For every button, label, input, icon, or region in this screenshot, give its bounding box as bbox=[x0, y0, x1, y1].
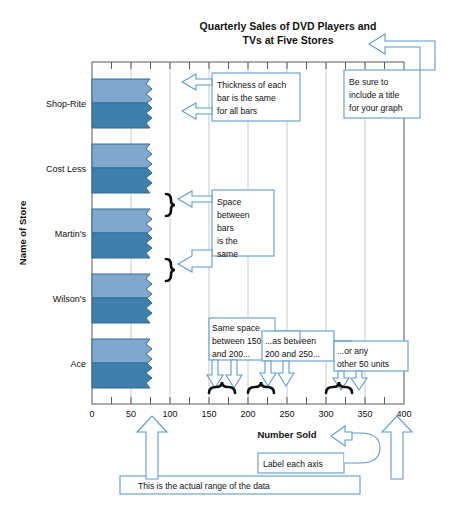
x-tick-300: 300 bbox=[318, 409, 333, 419]
bar-martins-tv bbox=[92, 233, 152, 258]
callout-space-line-1: Space bbox=[217, 197, 242, 207]
category-label-ace: Ace bbox=[70, 359, 86, 369]
x-tick-200: 200 bbox=[240, 409, 255, 419]
x-tick-100: 100 bbox=[162, 409, 177, 419]
callout-thickness-arrow-1 bbox=[182, 74, 212, 90]
chart-title-line-2: TVs at Five Stores bbox=[242, 34, 333, 46]
category-label-wilsons: Wilson's bbox=[53, 294, 87, 304]
callout-thickness-line-3: for all bars bbox=[217, 106, 257, 116]
bar-shop-rite-dvd bbox=[92, 79, 152, 103]
callout-other-50-line-2: other 50 units bbox=[337, 359, 389, 369]
bar-ace-dvd bbox=[92, 339, 152, 363]
callout-thickness-arrow-2 bbox=[182, 103, 212, 119]
bar-wilsons-dvd bbox=[92, 274, 152, 298]
bar-ace-tv bbox=[92, 363, 152, 388]
axis-brace-200-250 bbox=[248, 382, 274, 393]
bar-shop-rite-tv bbox=[92, 103, 152, 128]
callout-same-space-line-2: between 150 bbox=[212, 336, 261, 346]
category-label-cost-less: Cost Less bbox=[46, 164, 87, 174]
callout-as-between-arrow-2 bbox=[278, 361, 294, 386]
callout-space-line-2: between bbox=[217, 210, 250, 220]
callout-actual-range-line-1: This is the actual range of the data bbox=[138, 481, 270, 491]
callout-as-between-arrow-1 bbox=[260, 361, 276, 386]
callout-other-50-line-1: ...or any bbox=[337, 346, 369, 356]
callout-as-between-line-2: 200 and 250... bbox=[265, 349, 320, 359]
bar-wilsons-tv bbox=[92, 298, 152, 323]
callout-same-space-arrow-2 bbox=[226, 360, 242, 388]
callout-space-line-3: bars bbox=[217, 223, 234, 233]
y-axis-title: Name of Store bbox=[17, 201, 28, 265]
chart-canvas: Quarterly Sales of DVD Players and TVs a… bbox=[0, 0, 451, 509]
bar-cost-less-dvd bbox=[92, 144, 152, 168]
callout-thickness-line-1: Thickness of each bbox=[217, 80, 286, 90]
callout-space-arrow-2 bbox=[178, 250, 212, 272]
x-tick-250: 250 bbox=[279, 409, 294, 419]
callout-label-axis-line-1: Label each axis bbox=[263, 459, 323, 469]
callout-title-arrow bbox=[369, 34, 435, 70]
x-axis-title: Number Sold bbox=[257, 429, 316, 440]
x-tick-350: 350 bbox=[357, 409, 372, 419]
x-tick-150: 150 bbox=[201, 409, 216, 419]
callout-title-line-2: include a title bbox=[349, 90, 399, 100]
chart-title-line-1: Quarterly Sales of DVD Players and bbox=[200, 20, 377, 32]
callout-same-space-line-3: and 200... bbox=[212, 349, 250, 359]
callout-space-line-5: same bbox=[217, 249, 238, 259]
gap-brace-1 bbox=[166, 194, 175, 216]
callout-space-arrow-1 bbox=[178, 191, 212, 207]
callout-same-space-line-1: Same space bbox=[212, 323, 260, 333]
callout-thickness-line-2: bar is the same bbox=[217, 93, 276, 103]
callout-actual-range-arrow-right bbox=[382, 416, 412, 479]
x-tick-0: 0 bbox=[89, 409, 94, 419]
bar-cost-less-tv bbox=[92, 168, 152, 193]
bar-martins-dvd bbox=[92, 209, 152, 233]
callout-actual-range-arrow-left bbox=[137, 416, 167, 479]
top-axis-ticks bbox=[112, 62, 385, 69]
callout-as-between-line-1: ...as between bbox=[265, 336, 316, 346]
callout-title-line-1: Be sure to bbox=[349, 77, 388, 87]
chart-figure: Quarterly Sales of DVD Players and TVs a… bbox=[0, 0, 451, 509]
gap-brace-2 bbox=[166, 259, 175, 281]
category-label-shop-rite: Shop-Rite bbox=[46, 99, 86, 109]
x-tick-50: 50 bbox=[126, 409, 136, 419]
callout-space-line-4: is the bbox=[217, 236, 238, 246]
category-label-martins: Martin's bbox=[55, 229, 87, 239]
bottom-axis-ticks bbox=[112, 397, 385, 404]
callout-title-line-3: for your graph bbox=[349, 103, 403, 113]
